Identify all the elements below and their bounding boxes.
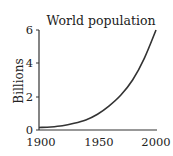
chart: World population Billions 6 4 2 0 1900 1… [0, 0, 173, 156]
chart-title: World population [46, 13, 155, 28]
y-axis-label: Billions [12, 58, 26, 103]
x-axis: 1900 1950 2000 [26, 130, 170, 149]
x-tick-label: 1950 [84, 135, 113, 149]
y-tick-label: 6 [26, 23, 33, 37]
y-tick-label: 2 [26, 90, 33, 104]
y-axis: 6 4 2 0 [26, 23, 39, 137]
y-tick-label: 4 [26, 56, 33, 70]
population-line [39, 30, 156, 128]
x-tick-label: 2000 [141, 135, 170, 149]
x-tick-label: 1900 [26, 135, 55, 149]
